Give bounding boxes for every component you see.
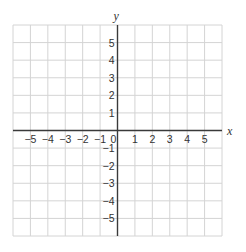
y-tick-label: 5 bbox=[109, 37, 115, 49]
x-tick-label: 1 bbox=[132, 133, 138, 145]
coordinate-plane: −5−4−3−2−1012345 54321−1−2−3−4−5 x y bbox=[0, 0, 246, 252]
y-tick-label: 3 bbox=[109, 72, 115, 84]
x-tick-label: −4 bbox=[42, 133, 54, 145]
y-tick-label: −5 bbox=[103, 212, 115, 224]
x-tick-label: −5 bbox=[24, 133, 36, 145]
y-tick-label: 4 bbox=[109, 54, 115, 66]
y-tick-label: −4 bbox=[103, 195, 115, 207]
y-tick-label: −3 bbox=[103, 177, 115, 189]
x-tick-label: 4 bbox=[184, 133, 190, 145]
x-tick-label: −2 bbox=[77, 133, 89, 145]
y-tick-label: −1 bbox=[103, 142, 115, 154]
axes bbox=[13, 25, 222, 236]
y-tick-label: 1 bbox=[109, 107, 115, 119]
x-tick-label: 5 bbox=[202, 133, 208, 145]
x-tick-label: 2 bbox=[149, 133, 155, 145]
x-axis-label: x bbox=[226, 124, 233, 138]
y-axis-label: y bbox=[113, 9, 120, 23]
y-tick-label: 2 bbox=[109, 89, 115, 101]
x-tick-labels: −5−4−3−2−1012345 bbox=[24, 133, 207, 145]
x-tick-label: −3 bbox=[59, 133, 71, 145]
x-tick-label: 3 bbox=[167, 133, 173, 145]
y-tick-label: −2 bbox=[103, 160, 115, 172]
